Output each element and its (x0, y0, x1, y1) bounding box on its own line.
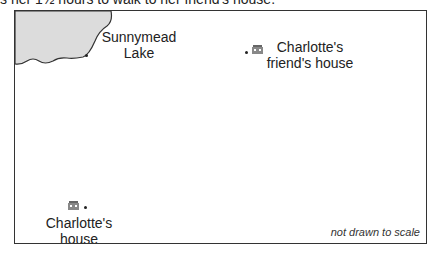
map-frame: Sunnymead Lake Charlotte's friend's hous… (14, 10, 427, 244)
friend-house-label: Charlotte's friend's house (265, 39, 355, 71)
lake-label: Sunnymead Lake (99, 29, 179, 61)
question-caption: s her 1½ hours to walk to her friend's h… (0, 0, 275, 7)
house-icon (67, 200, 80, 211)
scale-note: not drawn to scale (331, 226, 420, 238)
friend-house-point (245, 51, 248, 54)
home-point (84, 206, 87, 209)
lake-point (85, 54, 88, 57)
home-label: Charlotte's house (39, 215, 119, 244)
house-icon (251, 44, 264, 55)
